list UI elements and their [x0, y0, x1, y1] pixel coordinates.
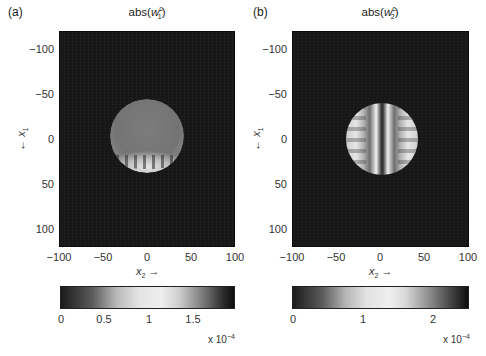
ylabel-sub: 1 — [22, 127, 29, 131]
xlabel-sub: 2 — [375, 272, 379, 279]
colorbar-tick: 0.5 — [96, 313, 111, 325]
ylabel-arrow: ← — [250, 140, 262, 151]
ylabel-var: x — [250, 131, 262, 137]
xtick: 50 — [185, 251, 197, 263]
ytick: −100 — [29, 43, 54, 55]
ylabel-var: x — [15, 131, 27, 137]
colorbar-tick: 1.5 — [185, 313, 200, 325]
side-bands — [346, 103, 418, 175]
colorbar-tick: 1 — [360, 313, 366, 325]
title-text: abs( — [129, 6, 151, 18]
panel-b-label: (b) — [253, 5, 268, 19]
panel-a-ylabel: ← x1 — [15, 127, 29, 150]
panel-a-title: abs(wc1) — [129, 5, 166, 20]
xtick: −50 — [327, 251, 346, 263]
disc-region — [346, 103, 418, 175]
ytick: 50 — [275, 178, 287, 190]
ylabel-sub: 1 — [257, 127, 264, 131]
title-close: ) — [395, 6, 399, 18]
ytick: 100 — [36, 223, 54, 235]
disc-region — [110, 99, 184, 173]
colorbar-tick: 0 — [58, 313, 64, 325]
colorbar-exponent: x 10−4 — [443, 333, 470, 345]
colorbar-exponent: x 10−4 — [208, 333, 235, 345]
ytick: 0 — [48, 133, 54, 145]
xlabel-arrow: → — [148, 265, 159, 277]
colorbar-tick: 1 — [146, 313, 152, 325]
xtick: 50 — [418, 251, 430, 263]
xlabel-arrow: → — [381, 265, 392, 277]
panel-a-label: (a) — [8, 5, 23, 19]
ylabel-arrow: ← — [15, 140, 27, 151]
xlabel-sub: 2 — [142, 272, 146, 279]
xtick: −100 — [47, 251, 72, 263]
panel-b-xlabel: x2 → — [369, 265, 392, 279]
colorbar-tick: 2 — [430, 313, 436, 325]
xtick: 100 — [459, 251, 477, 263]
exp-power: −4 — [227, 333, 235, 340]
ytick: −100 — [262, 43, 287, 55]
panel-b-ylabel: ← x1 — [250, 127, 264, 150]
ytick: −50 — [35, 88, 54, 100]
ytick: −50 — [268, 88, 287, 100]
panel-a-heatmap — [59, 31, 235, 247]
xtick: 0 — [377, 251, 383, 263]
exp-power: −4 — [462, 333, 470, 340]
title-close: ) — [162, 6, 166, 18]
title-text: abs( — [362, 6, 384, 18]
ytick: 100 — [269, 223, 287, 235]
panel-b-heatmap — [292, 31, 469, 247]
xtick: 0 — [144, 251, 150, 263]
exp-base: x 10 — [208, 334, 227, 345]
panel-a-xlabel: x2 → — [136, 265, 159, 279]
panel-b-title: abs(wc2) — [362, 5, 399, 20]
xtick: −100 — [280, 251, 305, 263]
colorbar-tick: 0 — [290, 313, 296, 325]
panel-a-colorbar — [60, 286, 235, 309]
ytick: 50 — [42, 178, 54, 190]
panel-b-colorbar — [292, 286, 469, 309]
xtick: −50 — [94, 251, 113, 263]
exp-base: x 10 — [443, 334, 462, 345]
xtick: 100 — [226, 251, 244, 263]
ytick: 0 — [281, 133, 287, 145]
